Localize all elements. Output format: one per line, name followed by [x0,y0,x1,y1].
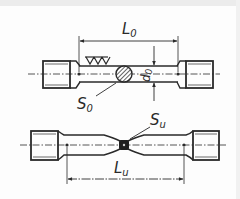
right-grip-head-after [193,131,219,160]
cross-section-s0 [116,66,132,82]
gauge-mark-right-after [182,143,185,146]
su-leader [130,127,150,139]
d0-label: d0 [139,68,154,82]
left-grip-head [43,61,70,88]
su-label: Su [150,111,166,130]
gauge-mark-right [176,72,179,75]
gauge-mark-left-after [65,143,68,146]
s0-leader [96,83,116,96]
specimen-after: Su Lu [20,111,226,184]
s0-label: S0 [77,95,93,114]
tensile-specimen-drawing: L0 d0 S0 Su Lu [0,0,240,199]
left-grip-head-after [31,131,58,160]
surface-finish-icon [85,57,110,64]
gauge-mark-left [77,72,80,75]
specimen-before: L0 d0 S0 [28,20,220,114]
right-grip-head [186,61,213,88]
l0-label: L0 [122,20,137,39]
lu-label: Lu [114,159,129,178]
